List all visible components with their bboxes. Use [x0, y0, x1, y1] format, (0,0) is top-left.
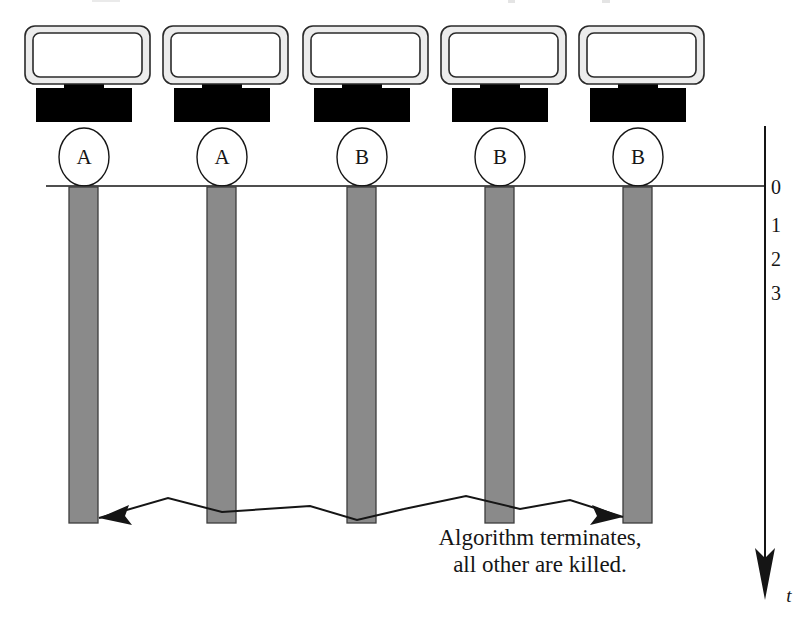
cropped-text-remnants — [92, 0, 610, 3]
monitor-base-5 — [590, 80, 686, 122]
monitor-base-4 — [452, 80, 548, 122]
annotation-line-1: Algorithm terminates, — [438, 525, 641, 550]
process-node-3: B — [337, 128, 387, 186]
computer-monitor-1 — [25, 26, 150, 122]
process-label-4: B — [493, 145, 507, 169]
process-timeline-diagram: A A B B B — [0, 0, 808, 622]
monitor-screen-5 — [587, 33, 696, 77]
computer-monitor-5 — [579, 26, 704, 122]
monitor-bezel-4 — [441, 26, 566, 84]
monitor-bezel-2 — [163, 26, 288, 84]
monitor-bezel-3 — [303, 26, 428, 84]
monitor-bezel-1 — [25, 26, 150, 84]
time-tick-label-1: 1 — [771, 214, 781, 236]
computer-monitor-4 — [441, 26, 566, 122]
process-label-5: B — [631, 145, 645, 169]
lifeline-bar-2 — [207, 187, 236, 523]
process-node-5: B — [613, 128, 663, 186]
monitor-screen-2 — [171, 33, 280, 77]
monitor-screen-3 — [311, 33, 420, 77]
monitor-screen-1 — [33, 33, 142, 77]
process-node-1: A — [59, 128, 109, 186]
process-node-4: B — [475, 128, 525, 186]
monitor-bezel-5 — [579, 26, 704, 84]
lifeline-bar-3 — [347, 187, 376, 523]
time-tick-label-3: 3 — [771, 282, 781, 304]
computer-monitor-3 — [303, 26, 428, 122]
lifeline-bar-1 — [69, 187, 98, 523]
arrowhead-left-icon — [99, 505, 132, 525]
lifeline-bar-4 — [485, 187, 514, 523]
time-tick-label-2: 2 — [771, 248, 781, 270]
figure-canvas: A A B B B — [0, 0, 808, 622]
monitor-base-3 — [314, 80, 410, 122]
time-axis-label: t — [786, 585, 792, 606]
monitor-screen-4 — [449, 33, 558, 77]
annotation-line-2: all other are killed. — [453, 552, 627, 577]
process-label-3: B — [355, 145, 369, 169]
lifeline-bar-5 — [623, 187, 652, 523]
process-label-2: A — [214, 145, 230, 169]
time-tick-label-0: 0 — [771, 176, 781, 198]
monitor-base-2 — [174, 80, 270, 122]
computer-monitor-2 — [163, 26, 288, 122]
time-axis: t — [755, 126, 792, 606]
process-label-1: A — [76, 145, 92, 169]
process-node-2: A — [197, 128, 247, 186]
monitor-base-1 — [36, 80, 132, 122]
